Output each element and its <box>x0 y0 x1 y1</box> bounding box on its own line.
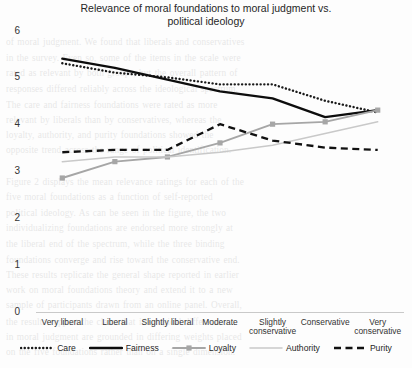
x-tick-very-conservative: Veryconservative <box>344 318 411 337</box>
data-point-marker <box>112 159 117 164</box>
legend-item-purity[interactable]: Purity <box>333 343 392 353</box>
series-line-purity <box>62 124 377 152</box>
legend-swatch-authority <box>249 343 283 353</box>
legend-swatch-loyalty <box>172 343 206 353</box>
legend-item-care[interactable]: Care <box>20 343 76 353</box>
series-care <box>62 63 377 112</box>
legend-swatch-fairness <box>89 343 123 353</box>
data-point-marker <box>375 108 380 113</box>
legend-item-authority[interactable]: Authority <box>249 343 320 353</box>
chart-container: Relevance of moral foundations to moral … <box>0 0 412 368</box>
legend-label-authority: Authority <box>286 343 320 353</box>
legend-label-loyalty: Loyalty <box>209 343 236 353</box>
series-loyalty <box>60 108 381 181</box>
legend-label-purity: Purity <box>370 343 392 353</box>
legend-swatch-care <box>20 343 54 353</box>
legend-swatch-purity <box>333 343 367 353</box>
x-axis-line <box>36 312 404 313</box>
series-line-fairness <box>62 59 377 118</box>
legend-label-fairness: Fairness <box>126 343 159 353</box>
series-fairness <box>62 59 377 118</box>
data-point-marker <box>60 175 65 180</box>
chart-legend: CareFairnessLoyaltyAuthorityPurity <box>0 343 412 353</box>
series-line-care <box>62 63 377 112</box>
data-point-marker <box>323 119 328 124</box>
legend-item-fairness[interactable]: Fairness <box>89 343 159 353</box>
series-purity <box>62 124 377 152</box>
plot-area <box>0 0 412 368</box>
legend-label-care: Care <box>57 343 76 353</box>
data-point-marker <box>270 122 275 127</box>
legend-item-loyalty[interactable]: Loyalty <box>172 343 236 353</box>
data-point-marker <box>217 140 222 145</box>
